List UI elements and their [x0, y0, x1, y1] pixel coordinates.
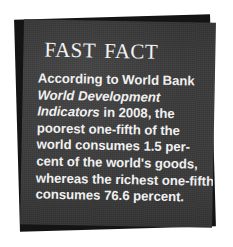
- body-line: consumes 76.6 percent.: [35, 187, 199, 207]
- callout-body-text: According to World Bank World Developmen…: [35, 70, 202, 206]
- body-line-text: According to World Bank: [38, 70, 195, 88]
- callout-front-paper-layer: Fast Fact According to World Bank World …: [20, 19, 216, 228]
- body-line-text: in 2008, the: [100, 105, 175, 121]
- body-line-text: consumes 76.6 percent.: [35, 187, 184, 205]
- body-line-text: poorest one-fifth of the: [37, 120, 180, 138]
- page-title: Fast Fact: [44, 32, 203, 65]
- fast-fact-callout: Fast Fact According to World Bank World …: [0, 0, 233, 247]
- publication-title-part: World Development: [37, 87, 160, 104]
- callout-content: Fast Fact According to World Bank World …: [35, 31, 202, 206]
- body-line-text: world consumes 1.5 per-: [36, 137, 190, 155]
- body-line-text: cent of the world's goods,: [36, 153, 198, 171]
- publication-title-part: Indicators: [37, 104, 100, 120]
- body-line-text: whereas the richest one-fifth: [36, 170, 214, 188]
